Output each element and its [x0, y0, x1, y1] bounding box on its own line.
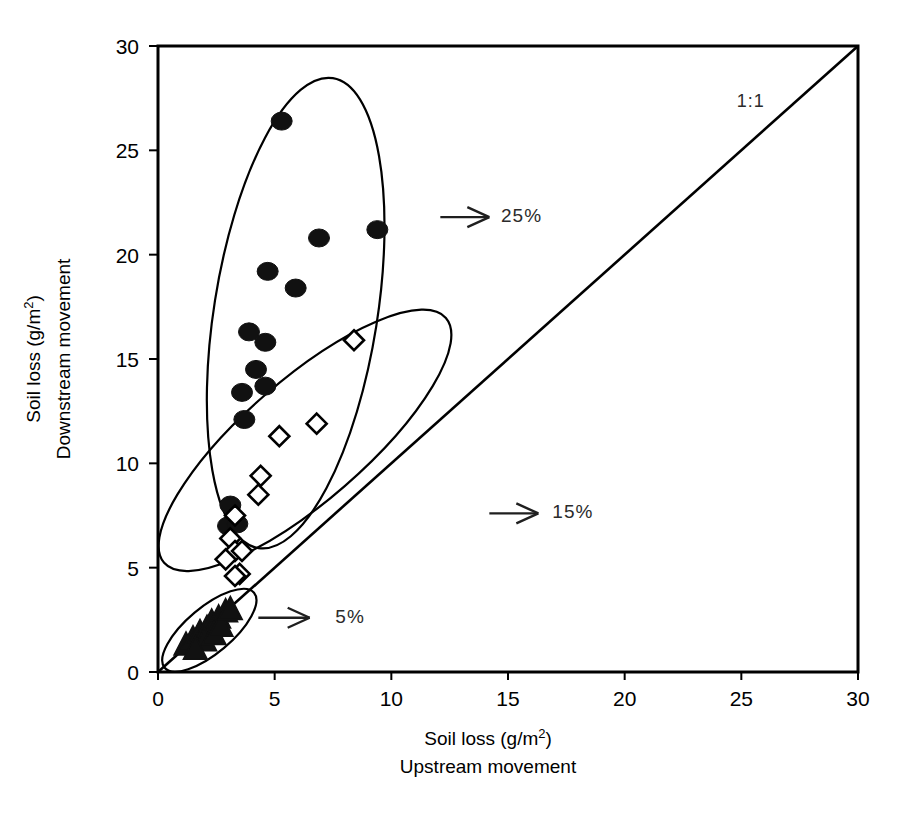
annotation-15-percent: 15%: [489, 501, 593, 523]
ellipse-25-percent: [178, 65, 414, 560]
open-diamond-marker: [269, 426, 289, 446]
y-axis-title: Soil loss (g/m2)Downstream movement: [21, 258, 74, 459]
y-tick-label: 0: [127, 661, 139, 684]
open-diamond-marker: [251, 466, 271, 486]
ellipse-15-percent: [124, 272, 485, 608]
y-tick-label: 25: [116, 139, 139, 162]
y-tick-label: 5: [127, 557, 139, 580]
filled-circle-marker: [367, 221, 388, 239]
x-tick-label: 5: [269, 687, 281, 710]
filled-circle-marker: [309, 229, 330, 247]
filled-circle-marker: [271, 112, 292, 130]
y-axis-title-line1: Soil loss (g/m2): [21, 295, 44, 423]
y-axis-title-unit-text: Soil loss (g/m: [23, 309, 44, 423]
annotations: 25%15%5%: [258, 205, 593, 628]
x-axis-title-unit-text: Soil loss (g/m: [424, 728, 538, 749]
y-axis-title-superscript: 2: [21, 302, 36, 309]
series-3-markers: [174, 596, 242, 659]
y-tick-label: 10: [116, 452, 139, 475]
y-axis-title-close-paren: ): [23, 295, 44, 301]
open-diamond-marker: [248, 485, 268, 505]
grouping-ellipses: [124, 65, 485, 685]
x-axis-title-line2: Upstream movement: [400, 756, 577, 777]
filled-circle-marker: [257, 262, 278, 280]
ratio-label-1-to-1: 1:1: [737, 91, 765, 111]
filled-circle-marker: [285, 279, 306, 297]
x-tick-label: 10: [380, 687, 403, 710]
x-axis-title-line1: Soil loss (g/m2): [424, 726, 552, 749]
annotation-label: 25%: [501, 205, 542, 226]
x-tick-label: 25: [730, 687, 753, 710]
annotation-label: 15%: [552, 501, 593, 522]
annotation-5-percent: 5%: [258, 606, 364, 628]
y-tick-label: 20: [116, 244, 139, 267]
x-axis-title-superscript: 2: [538, 726, 545, 741]
x-axis-title-close-paren: ): [545, 728, 551, 749]
annotation-25-percent: 25%: [440, 205, 542, 227]
filled-circle-marker: [234, 411, 255, 429]
x-tick-label: 20: [613, 687, 636, 710]
series-2-markers: [216, 330, 364, 586]
plot-canvas: 0510152025300510152025301:125%15%5%Soil …: [0, 0, 911, 817]
filled-circle-marker: [255, 333, 276, 351]
filled-circle-marker: [255, 377, 276, 395]
filled-circle-marker: [246, 360, 267, 378]
y-tick-label: 15: [116, 348, 139, 371]
filled-circle-marker: [232, 383, 253, 401]
x-tick-label: 15: [496, 687, 519, 710]
x-tick-label: 30: [846, 687, 869, 710]
annotation-label: 5%: [335, 606, 364, 627]
open-diamond-marker: [344, 330, 364, 350]
open-diamond-marker: [307, 414, 327, 434]
scatter-plot-figure: 0510152025300510152025301:125%15%5%Soil …: [0, 0, 911, 817]
x-axis-title: Soil loss (g/m2)Upstream movement: [400, 726, 577, 777]
y-tick-label: 30: [116, 35, 139, 58]
x-tick-label: 0: [152, 687, 164, 710]
y-axis-title-line2: Downstream movement: [53, 258, 74, 459]
